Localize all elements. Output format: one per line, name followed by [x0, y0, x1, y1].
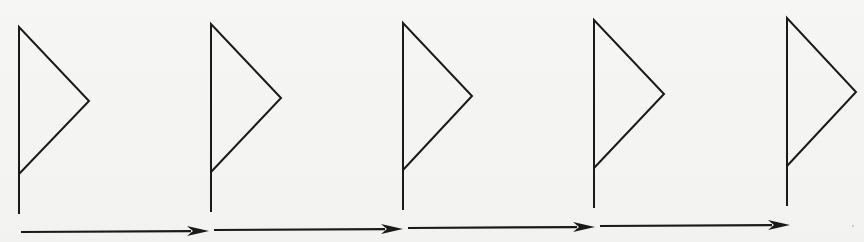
- flag-icon: [19, 27, 89, 214]
- arrow-right-icon: [214, 224, 403, 234]
- arrow-right-icon: [408, 222, 595, 232]
- flag-outline: [403, 23, 472, 210]
- flags-group: [19, 18, 856, 214]
- scan-speck: [852, 225, 854, 227]
- flag-outline: [211, 24, 281, 212]
- flag-icon: [211, 24, 281, 212]
- flag-outline: [787, 18, 856, 206]
- arrows-group: [21, 220, 790, 236]
- arrow-right-icon: [600, 220, 790, 230]
- diagram-canvas: [0, 0, 864, 242]
- flag-icon: [403, 23, 472, 210]
- arrow-shaft: [214, 229, 385, 230]
- arrow-right-icon: [21, 226, 209, 236]
- flag-icon: [594, 20, 664, 208]
- flag-icon: [787, 18, 856, 206]
- flag-sequence-diagram: [0, 0, 864, 242]
- arrow-shaft: [600, 225, 772, 226]
- arrow-shaft: [408, 227, 577, 228]
- arrow-shaft: [21, 231, 191, 232]
- flag-outline: [594, 20, 664, 208]
- flag-outline: [19, 27, 89, 214]
